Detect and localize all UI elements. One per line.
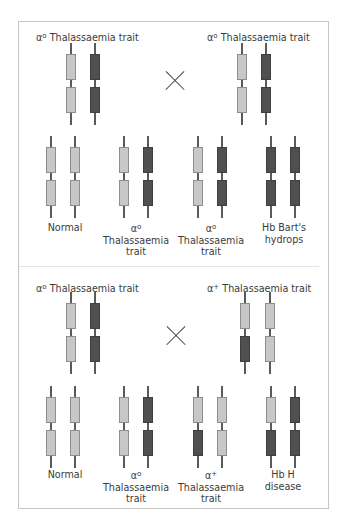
parent-right-chromosome-b — [265, 292, 275, 374]
offspring-label-1-1: Normal — [48, 222, 83, 233]
alpha-gene-block — [119, 147, 129, 173]
alpha-gene-block — [265, 336, 275, 362]
alpha-gene-block — [240, 303, 250, 329]
deleted-gene-block — [217, 180, 227, 206]
deleted-gene-block — [266, 430, 276, 456]
alpha-gene-block — [119, 430, 129, 456]
offspring-2-chromosome-a — [119, 386, 129, 468]
offspring-3-chromosome-b — [217, 386, 227, 468]
deleted-gene-block — [290, 147, 300, 173]
label-line: trait — [126, 246, 146, 257]
label-line: Thalassaemia — [103, 482, 169, 493]
alpha-gene-block — [70, 397, 80, 423]
deleted-gene-block — [90, 303, 100, 329]
alpha-gene-block — [266, 397, 276, 423]
offspring-label-1-2: αo Thalassaemia trait — [103, 222, 169, 258]
parent-right-chromosome-a — [237, 43, 247, 125]
superscript: + — [213, 283, 219, 291]
cross-icon — [165, 71, 185, 91]
deleted-gene-block — [90, 54, 100, 80]
deleted-gene-block — [143, 397, 153, 423]
deleted-gene-block — [143, 430, 153, 456]
label-line: trait — [201, 493, 221, 504]
alpha-gene-block — [66, 54, 76, 80]
deleted-gene-block — [193, 430, 203, 456]
offspring-label-1-4: Hb Bart's hydrops — [262, 222, 306, 245]
offspring-2-chromosome-a — [119, 136, 129, 218]
alpha-gene-block — [70, 180, 80, 206]
offspring-4-chromosome-a — [266, 386, 276, 468]
parent-left-chromosome-b — [90, 292, 100, 374]
deleted-gene-block — [217, 147, 227, 173]
alpha-gene-block — [119, 180, 129, 206]
parent-label-left-2: αo Thalassaemia trait — [36, 282, 139, 294]
superscript: o — [137, 223, 141, 231]
offspring-4-chromosome-b — [290, 136, 300, 218]
superscript: + — [211, 470, 217, 478]
alpha-gene-block — [217, 430, 227, 456]
offspring-1-chromosome-b — [70, 386, 80, 468]
deleted-gene-block — [143, 147, 153, 173]
offspring-label-2-4: Hb H disease — [265, 469, 301, 492]
alpha-gene-block — [46, 180, 56, 206]
alpha-gene-block — [46, 430, 56, 456]
offspring-label-2-1: Normal — [48, 469, 83, 480]
offspring-4-chromosome-a — [266, 136, 276, 218]
label-line: hydrops — [265, 234, 304, 245]
label-line: trait — [201, 246, 221, 257]
deleted-gene-block — [290, 397, 300, 423]
deleted-gene-block — [266, 147, 276, 173]
offspring-3-chromosome-b — [217, 136, 227, 218]
label-line: Normal — [48, 222, 83, 233]
alpha-gene-block — [193, 180, 203, 206]
diagram-frame — [18, 21, 329, 509]
label-line: Hb H — [271, 469, 295, 480]
offspring-2-chromosome-b — [143, 386, 153, 468]
alpha-gene-block — [66, 336, 76, 362]
offspring-1-chromosome-a — [46, 136, 56, 218]
deleted-gene-block — [90, 87, 100, 113]
label-line: Normal — [48, 469, 83, 480]
alpha-gene-block — [119, 397, 129, 423]
deleted-gene-block — [261, 54, 271, 80]
label-line: disease — [265, 481, 301, 492]
offspring-label-2-2: αo Thalassaemia trait — [103, 469, 169, 505]
parent-name: Thalassaemia trait — [221, 32, 310, 43]
deleted-gene-block — [143, 180, 153, 206]
parent-right-chromosome-a — [240, 292, 250, 374]
parent-label-right-2: α+ Thalassaemia trait — [207, 282, 311, 294]
label-line: Thalassaemia — [178, 235, 244, 246]
deleted-gene-block — [240, 336, 250, 362]
offspring-1-chromosome-a — [46, 386, 56, 468]
offspring-2-chromosome-b — [143, 136, 153, 218]
parent-label-right-1: αo Thalassaemia trait — [207, 31, 310, 43]
superscript: o — [213, 32, 217, 40]
parent-left-chromosome-a — [66, 292, 76, 374]
alpha-gene-block — [193, 147, 203, 173]
alpha-gene-block — [237, 54, 247, 80]
superscript: o — [212, 223, 216, 231]
parent-name: Thalassaemia trait — [50, 32, 139, 43]
label-line: Thalassaemia — [178, 482, 244, 493]
alpha-gene-block — [237, 87, 247, 113]
deleted-gene-block — [261, 87, 271, 113]
parent-left-chromosome-b — [90, 43, 100, 125]
deleted-gene-block — [290, 180, 300, 206]
offspring-label-1-3: αo Thalassaemia trait — [178, 222, 244, 258]
label-line: trait — [126, 493, 146, 504]
alpha-gene-block — [217, 397, 227, 423]
superscript: o — [137, 470, 141, 478]
label-line: Thalassaemia — [103, 235, 169, 246]
label-line: Hb Bart's — [262, 222, 306, 233]
alpha-gene-block — [265, 303, 275, 329]
offspring-4-chromosome-b — [290, 386, 300, 468]
parent-left-chromosome-a — [66, 43, 76, 125]
deleted-gene-block — [90, 336, 100, 362]
alpha-gene-block — [70, 147, 80, 173]
offspring-3-chromosome-a — [193, 136, 203, 218]
alpha-gene-block — [46, 147, 56, 173]
alpha-gene-block — [66, 303, 76, 329]
alpha-gene-block — [66, 87, 76, 113]
alpha-gene-block — [46, 397, 56, 423]
cross-icon — [166, 326, 186, 346]
